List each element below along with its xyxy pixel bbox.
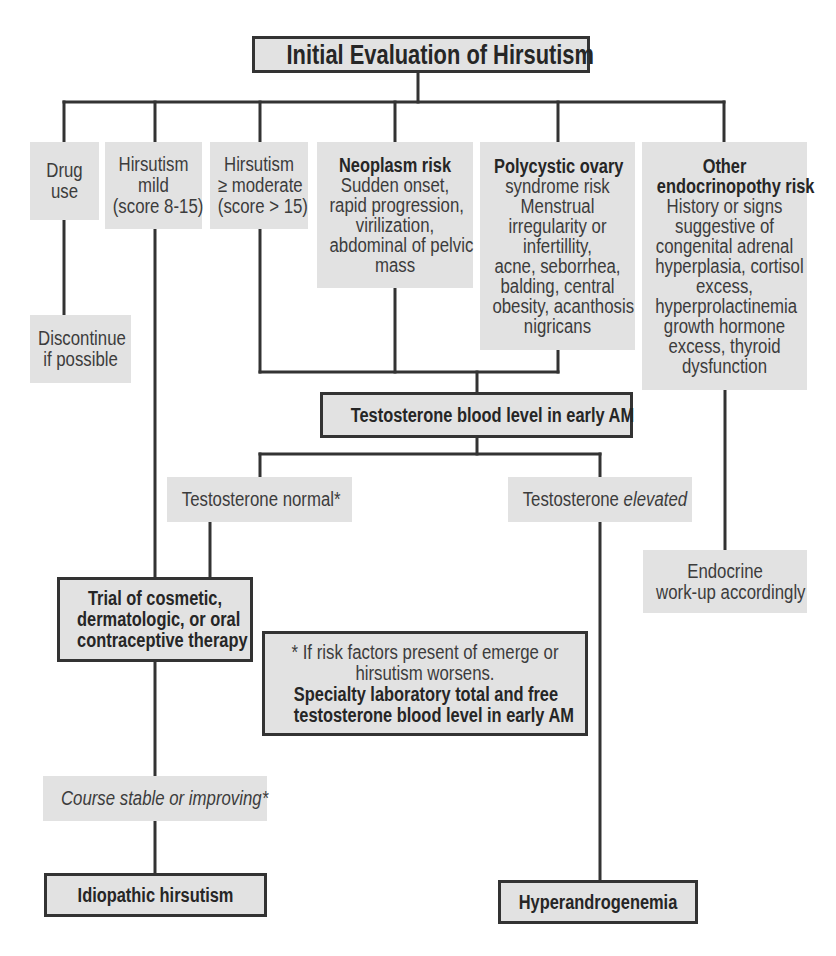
testosterone-level-box: Testosterone blood level in early AM <box>320 392 633 438</box>
box-label: Idiopathic hirsutism <box>67 885 245 906</box>
box-heading: endocrinopothy risk <box>657 176 792 196</box>
box-label: Testosterone normal* <box>182 489 337 510</box>
trial-therapy-box: Trial of cosmetic, dermatologic, or oral… <box>57 577 253 662</box>
box-line: ≥ moderate <box>218 175 300 196</box>
box-heading: Other <box>657 156 792 176</box>
box-line: suggestive of <box>655 216 794 236</box>
box-line: dysfunction <box>655 356 794 376</box>
footnote-line: hirsutism worsens. <box>291 663 560 684</box>
box-line: Endocrine <box>656 561 794 582</box>
box-line: Drug <box>36 160 94 181</box>
footnote-box: * If risk factors present of emerge or h… <box>262 631 588 736</box>
box-label-prefix: Testosterone <box>523 488 619 510</box>
hirsutism-moderate-box: Hirsutism ≥ moderate (score > 15) <box>210 142 308 229</box>
footnote-bold-line: Specialty laboratory total and free <box>294 684 556 705</box>
box-line: mild <box>113 175 194 196</box>
box-line: hyperprolactinemia <box>655 296 794 316</box>
title-text: Initial Evaluation of Hirsutism <box>287 40 556 70</box>
pcos-risk-box: Polycystic ovary syndrome risk Menstrual… <box>480 142 635 350</box>
footnote-bold-line: testosterone blood level in early AM <box>294 705 556 726</box>
box-line: abdominal of pelvic <box>329 235 460 255</box>
box-line: dermatologic, or oral <box>77 609 233 630</box>
box-label: Testosterone blood level in early AM <box>351 405 603 426</box>
box-label-line: Testosterone elevated <box>523 489 678 510</box>
box-label-emphasis: elevated <box>624 488 688 510</box>
box-line: excess, thyroid <box>655 336 794 356</box>
hirsutism-mild-box: Hirsutism mild (score 8-15) <box>105 142 202 229</box>
box-line: congenital adrenal <box>655 236 794 256</box>
box-line: work-up accordingly <box>656 582 794 603</box>
title-box: Initial Evaluation of Hirsutism <box>252 36 590 73</box>
box-line: rapid progression, <box>329 195 460 215</box>
box-line: Discontinue <box>38 328 123 349</box>
box-line: (score 8-15) <box>113 196 194 217</box>
box-line: if possible <box>38 349 123 370</box>
box-line: excess, <box>655 276 794 296</box>
box-line: acne, seborrhea, <box>492 256 622 276</box>
endocrine-workup-box: Endocrine work-up accordingly <box>643 550 807 613</box>
box-line: balding, central <box>492 276 622 296</box>
hyperandrogenemia-box: Hyperandrogenemia <box>498 880 698 924</box>
box-line: Menstrual <box>492 196 622 216</box>
testosterone-normal-box: Testosterone normal* <box>167 477 352 522</box>
other-endocrinopathy-risk-box: Other endocrinopothy risk History or sig… <box>642 142 807 390</box>
box-heading: Neoplasm risk <box>331 155 459 175</box>
box-line: (score > 15) <box>218 196 300 217</box>
box-line: use <box>36 181 94 202</box>
box-line: Hirsutism <box>113 154 194 175</box>
course-stable-box: Course stable or improving* <box>43 776 267 821</box>
box-line: History or signs <box>655 196 794 216</box>
footnote-line: * If risk factors present of emerge or <box>291 642 560 663</box>
box-line: irregularity or <box>492 216 622 236</box>
testosterone-elevated-box: Testosterone elevated <box>508 477 692 522</box>
box-line: mass <box>329 255 460 275</box>
box-line: virilization, <box>329 215 460 235</box>
idiopathic-hirsutism-box: Idiopathic hirsutism <box>44 873 267 917</box>
box-line: Sudden onset, <box>329 175 460 195</box>
hirsutism-flowchart: Initial Evaluation of Hirsutism Drug use… <box>0 0 836 956</box>
box-label: Course stable or improving* <box>61 788 249 809</box>
box-label: Hyperandrogenemia <box>518 892 677 913</box>
neoplasm-risk-box: Neoplasm risk Sudden onset, rapid progre… <box>317 142 473 288</box>
box-line: syndrome risk <box>492 176 622 196</box>
box-line: hyperplasia, cortisol <box>655 256 794 276</box>
drug-use-box: Drug use <box>30 142 99 220</box>
box-line: contraceptive therapy <box>77 630 233 651</box>
box-line: nigricans <box>492 316 622 336</box>
box-line: Hirsutism <box>218 154 300 175</box>
box-line: growth hormone <box>655 316 794 336</box>
discontinue-box: Discontinue if possible <box>30 315 131 383</box>
box-line: obesity, acanthosis <box>492 296 622 316</box>
box-line: infertillity, <box>492 236 622 256</box>
box-heading: Polycystic ovary <box>494 156 621 176</box>
box-line: Trial of cosmetic, <box>77 588 233 609</box>
